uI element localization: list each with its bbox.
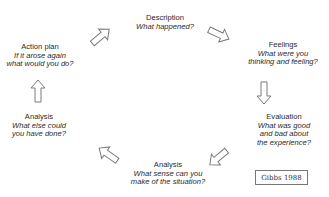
- stage-feelings: Feelings What were you thinking and feel…: [238, 41, 328, 67]
- stage-question: what would you do?: [0, 60, 80, 69]
- stage-question: What happened?: [120, 23, 210, 32]
- stage-analysis-else: Analysis What else could you have done?: [0, 113, 78, 139]
- stage-action-plan: Action plan If it arose again what would…: [0, 43, 80, 69]
- stage-question: you have done?: [0, 130, 78, 139]
- arrow-up-icon: [31, 80, 45, 102]
- arrow-up-right-icon: [88, 24, 114, 49]
- stage-description: Description What happened?: [120, 14, 210, 31]
- stage-question: the experience?: [242, 139, 326, 148]
- stage-evaluation: Evaluation What was good and bad about t…: [242, 113, 326, 147]
- stage-question: make of the situation?: [118, 178, 218, 187]
- reference-citation: Gibbs 1988: [255, 170, 308, 185]
- stage-question: thinking and feeling?: [238, 58, 328, 67]
- arrow-down-icon: [257, 82, 271, 104]
- stage-analysis-sense: Analysis What sense can you make of the …: [118, 161, 218, 187]
